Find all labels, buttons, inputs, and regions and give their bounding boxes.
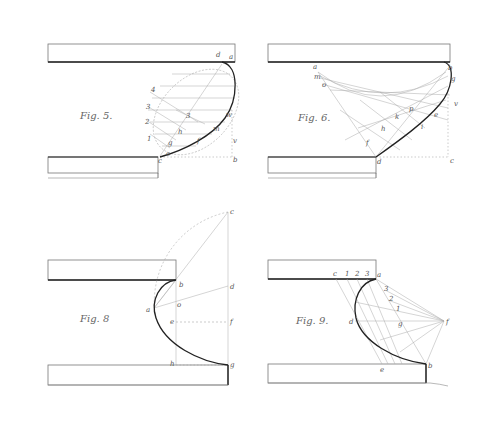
fig9-label-2: 2 xyxy=(354,270,360,278)
fig8-label-b: b xyxy=(179,281,184,289)
fig5-label-4: 4 xyxy=(150,86,155,94)
fig8-label-o: o xyxy=(177,301,181,309)
fig9-label-d: d xyxy=(349,318,354,326)
figure-6: a m o b g p k h f e i v d c Fig. 6. xyxy=(268,44,458,178)
figure-5: d a 4 3 2 1 3 h g e w m f v b c Fig. 5. xyxy=(48,44,255,178)
fig5-label-m: m xyxy=(213,125,220,133)
fig9-label-g: g xyxy=(398,320,403,328)
fig8-caption: Fig. 8 xyxy=(79,313,109,324)
fig6-label-e: e xyxy=(434,111,438,119)
fig9-label-e: e xyxy=(380,366,384,374)
fig9-label-f: f xyxy=(445,318,450,326)
fig8-label-e: e xyxy=(170,318,174,326)
drawing-plate: d a 4 3 2 1 3 h g e w m f v b c Fig. 5. xyxy=(0,0,502,442)
fig6-label-c: c xyxy=(450,157,454,165)
fig6-caption: Fig. 6. xyxy=(297,112,330,123)
fig8-label-f: f xyxy=(229,318,234,326)
fig6-label-m: m xyxy=(314,73,321,81)
fig6-label-f: f xyxy=(365,139,370,147)
fig5-label-f: f xyxy=(196,137,201,145)
fig9-label-b: b xyxy=(428,362,433,370)
fig6-label-i: i xyxy=(421,123,423,131)
fig6-label-p: p xyxy=(409,105,414,113)
fig5-label-1: 1 xyxy=(147,135,151,143)
fig6-label-v: v xyxy=(454,100,458,108)
plate-svg: d a 4 3 2 1 3 h g e w m f v b c Fig. 5. xyxy=(0,0,502,442)
fig6-label-k: k xyxy=(395,113,399,121)
fig9-label-a: a xyxy=(377,271,381,279)
fig9-label-t3: 3 xyxy=(384,285,389,293)
fig5-label-2: 2 xyxy=(144,118,150,126)
fig5-label-v: v xyxy=(233,137,237,145)
fig6-label-h: h xyxy=(381,125,386,133)
fig5-label-g: g xyxy=(168,139,173,147)
fig6-label-o: o xyxy=(322,81,326,89)
fig8-label-g: g xyxy=(230,361,235,369)
fig6-label-d: d xyxy=(377,158,382,166)
fig5-label-3: 3 xyxy=(146,103,151,111)
fig5-label-b: b xyxy=(233,156,238,164)
fig6-label-a: a xyxy=(313,63,317,71)
fig5-label-e: e xyxy=(166,150,170,158)
fig5-label-a: a xyxy=(229,53,233,61)
fig8-label-d: d xyxy=(230,283,235,291)
fig6-label-g: g xyxy=(451,75,456,83)
fig9-caption: Fig. 9. xyxy=(295,315,328,326)
figure-9: c 1 2 3 a 3 2 1 d g f e b Fig. 9. xyxy=(268,260,450,386)
figure-8: c b d a o e f h g Fig. 8 xyxy=(48,208,235,385)
fig5-label-w: w xyxy=(226,111,232,119)
fig5-label-s: 3 xyxy=(186,112,191,120)
fig9-label-t2: 2 xyxy=(388,295,394,303)
fig9-label-3: 3 xyxy=(365,270,370,278)
fig9-label-c: c xyxy=(333,270,337,278)
fig5-caption: Fig. 5. xyxy=(79,110,112,121)
fig8-label-c: c xyxy=(230,208,234,216)
fig8-label-a: a xyxy=(146,306,150,314)
fig8-label-h: h xyxy=(170,360,175,368)
fig6-label-b: b xyxy=(448,64,453,72)
fig9-label-1: 1 xyxy=(345,270,349,278)
fig5-label-h: h xyxy=(178,128,183,136)
fig5-label-c: c xyxy=(158,157,162,165)
fig9-label-t1: 1 xyxy=(396,305,400,313)
fig5-label-d: d xyxy=(216,51,221,59)
